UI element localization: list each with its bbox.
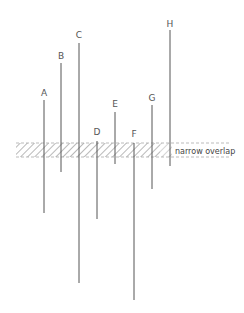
line-d: D	[94, 127, 101, 219]
overlap-diagram: narrow overlap ABCDEFGH	[0, 0, 244, 313]
lines-group: ABCDEFGH	[41, 19, 173, 300]
line-label: E	[112, 99, 118, 109]
overlap-band: narrow overlap	[16, 143, 235, 157]
line-label: H	[167, 19, 174, 29]
band-label: narrow overlap	[175, 147, 235, 156]
line-g: G	[149, 93, 156, 189]
line-label: G	[149, 93, 156, 103]
line-label: B	[58, 51, 64, 61]
line-label: F	[131, 129, 136, 139]
line-label: C	[76, 30, 82, 40]
hatched-band-fill	[16, 143, 160, 157]
line-label: A	[41, 88, 48, 98]
line-label: D	[94, 127, 101, 137]
